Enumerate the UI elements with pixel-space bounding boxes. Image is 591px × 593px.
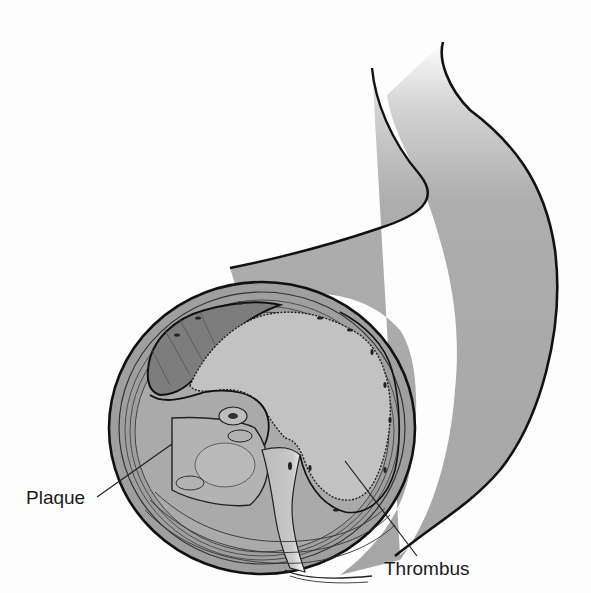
thrombus-label: Thrombus: [384, 559, 470, 578]
artery-illustration: [0, 0, 591, 593]
plaque-label: Plaque: [26, 488, 85, 507]
vessel-cross-section: [109, 282, 415, 583]
artery-diagram: Plaque Thrombus: [0, 0, 591, 593]
